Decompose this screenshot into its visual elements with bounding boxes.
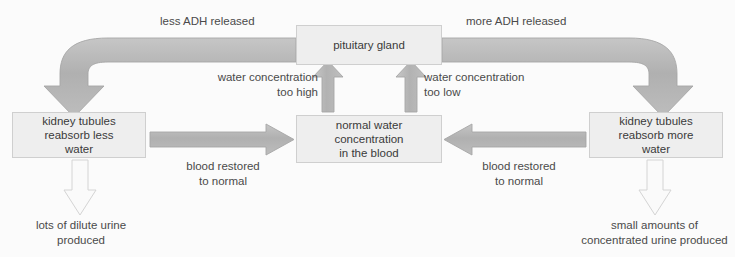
- label-water-concentration-too-high: water concentration too high: [190, 70, 318, 99]
- box-kidney-tubules-reabsorb-less: kidney tubules reabsorb less water: [12, 112, 146, 158]
- arrow-right-tubules-to-normal: [444, 124, 586, 155]
- box-normal-water-concentration-label: normal water concentration in the blood: [334, 118, 403, 160]
- box-kidney-tubules-reabsorb-more: kidney tubules reabsorb more water: [589, 112, 723, 158]
- arrow-left-tubules-to-normal: [150, 124, 294, 155]
- label-more-adh-released: more ADH released: [466, 14, 626, 29]
- label-small-amounts-concentrated-urine-produced: small amounts of concentrated urine prod…: [574, 218, 735, 247]
- arrow-right-tubules-to-urine: [639, 160, 671, 215]
- box-pituitary-gland: pituitary gland: [296, 25, 442, 65]
- label-less-adh-released: less ADH released: [160, 14, 310, 29]
- box-pituitary-gland-label: pituitary gland: [333, 38, 405, 52]
- box-kidney-tubules-reabsorb-more-label: kidney tubules reabsorb more water: [619, 114, 694, 156]
- label-lots-of-dilute-urine-produced: lots of dilute urine produced: [6, 218, 156, 247]
- box-kidney-tubules-reabsorb-less-label: kidney tubules reabsorb less water: [42, 114, 116, 156]
- label-blood-restored-to-normal-left: blood restored to normal: [156, 159, 290, 188]
- arrow-left-tubules-to-urine: [64, 160, 96, 215]
- box-normal-water-concentration: normal water concentration in the blood: [296, 115, 442, 163]
- arrow-normal-to-pituitary-low: [396, 61, 426, 112]
- adh-regulation-diagram: pituitary gland normal water concentrati…: [0, 0, 735, 257]
- label-blood-restored-to-normal-right: blood restored to normal: [452, 159, 586, 188]
- label-water-concentration-too-low: water concentration too low: [424, 70, 564, 99]
